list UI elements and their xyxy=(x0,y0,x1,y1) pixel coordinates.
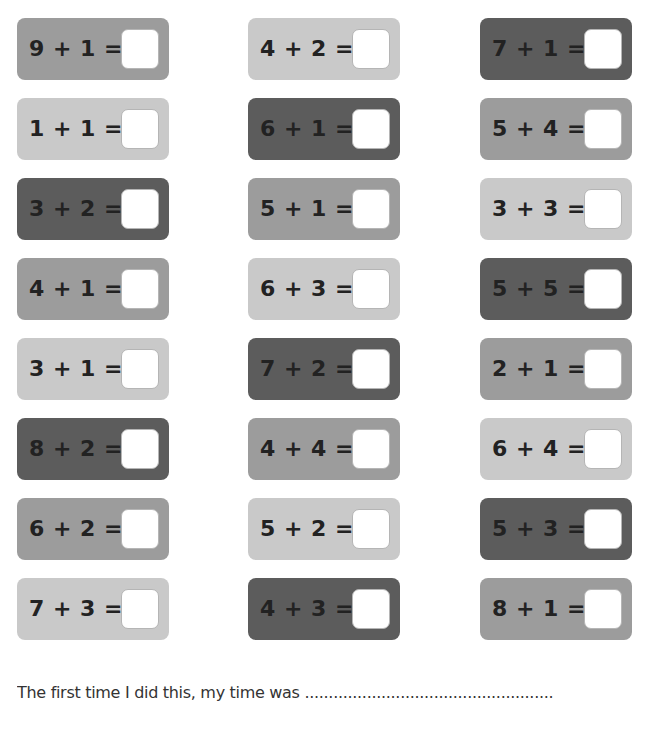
equation-card: 5 + 3 = xyxy=(480,498,632,560)
equation-text: 5 + 2 = xyxy=(260,498,354,560)
equation-card: 8 + 2 = xyxy=(17,418,169,480)
equation-card: 9 + 1 = xyxy=(17,18,169,80)
equation-card: 1 + 1 = xyxy=(17,98,169,160)
equation-text: 5 + 5 = xyxy=(492,258,586,320)
equation-card: 7 + 3 = xyxy=(17,578,169,640)
answer-box[interactable] xyxy=(121,509,159,549)
equation-text: 1 + 1 = xyxy=(29,98,123,160)
equation-text: 3 + 2 = xyxy=(29,178,123,240)
answer-box[interactable] xyxy=(121,349,159,389)
equation-card: 4 + 2 = xyxy=(248,18,400,80)
equation-text: 5 + 1 = xyxy=(260,178,354,240)
answer-box[interactable] xyxy=(352,349,390,389)
equation-card: 4 + 1 = xyxy=(17,258,169,320)
equation-card: 4 + 3 = xyxy=(248,578,400,640)
equation-card: 3 + 3 = xyxy=(480,178,632,240)
answer-box[interactable] xyxy=(584,349,622,389)
equation-text: 4 + 1 = xyxy=(29,258,123,320)
answer-box[interactable] xyxy=(352,189,390,229)
equation-text: 2 + 1 = xyxy=(492,338,586,400)
equation-text: 9 + 1 = xyxy=(29,18,123,80)
equation-text: 6 + 2 = xyxy=(29,498,123,560)
equation-card: 7 + 2 = xyxy=(248,338,400,400)
equation-text: 4 + 3 = xyxy=(260,578,354,640)
equation-card: 5 + 5 = xyxy=(480,258,632,320)
time-record-line: The first time I did this, my time was .… xyxy=(17,683,637,702)
equation-text: 8 + 2 = xyxy=(29,418,123,480)
answer-box[interactable] xyxy=(352,429,390,469)
equation-card: 8 + 1 = xyxy=(480,578,632,640)
answer-box[interactable] xyxy=(121,269,159,309)
equation-text: 3 + 3 = xyxy=(492,178,586,240)
answer-box[interactable] xyxy=(584,109,622,149)
answer-box[interactable] xyxy=(584,189,622,229)
answer-box[interactable] xyxy=(352,29,390,69)
answer-box[interactable] xyxy=(352,109,390,149)
equation-text: 3 + 1 = xyxy=(29,338,123,400)
equation-text: 7 + 3 = xyxy=(29,578,123,640)
equation-card: 2 + 1 = xyxy=(480,338,632,400)
answer-box[interactable] xyxy=(352,509,390,549)
answer-box[interactable] xyxy=(121,589,159,629)
equation-text: 6 + 1 = xyxy=(260,98,354,160)
equation-card: 6 + 3 = xyxy=(248,258,400,320)
equation-card: 5 + 1 = xyxy=(248,178,400,240)
answer-box[interactable] xyxy=(584,429,622,469)
answer-box[interactable] xyxy=(584,269,622,309)
answer-box[interactable] xyxy=(584,589,622,629)
answer-box[interactable] xyxy=(121,189,159,229)
equation-card: 5 + 2 = xyxy=(248,498,400,560)
equation-text: 4 + 2 = xyxy=(260,18,354,80)
answer-box[interactable] xyxy=(121,429,159,469)
answer-box[interactable] xyxy=(352,269,390,309)
answer-box[interactable] xyxy=(584,509,622,549)
equation-card: 3 + 1 = xyxy=(17,338,169,400)
addition-worksheet-grid: 9 + 1 = 1 + 1 = 3 + 2 = 4 + 1 = 3 + 1 = … xyxy=(0,0,651,650)
equation-card: 6 + 2 = xyxy=(17,498,169,560)
equation-card: 3 + 2 = xyxy=(17,178,169,240)
equation-text: 6 + 3 = xyxy=(260,258,354,320)
equation-text: 5 + 4 = xyxy=(492,98,586,160)
answer-box[interactable] xyxy=(584,29,622,69)
equation-text: 5 + 3 = xyxy=(492,498,586,560)
equation-card: 4 + 4 = xyxy=(248,418,400,480)
equation-text: 7 + 2 = xyxy=(260,338,354,400)
equation-text: 7 + 1 = xyxy=(492,18,586,80)
equation-card: 6 + 4 = xyxy=(480,418,632,480)
equation-text: 8 + 1 = xyxy=(492,578,586,640)
answer-box[interactable] xyxy=(121,29,159,69)
equation-card: 5 + 4 = xyxy=(480,98,632,160)
answer-box[interactable] xyxy=(121,109,159,149)
equation-card: 7 + 1 = xyxy=(480,18,632,80)
equation-card: 6 + 1 = xyxy=(248,98,400,160)
equation-text: 6 + 4 = xyxy=(492,418,586,480)
equation-text: 4 + 4 = xyxy=(260,418,354,480)
answer-box[interactable] xyxy=(352,589,390,629)
